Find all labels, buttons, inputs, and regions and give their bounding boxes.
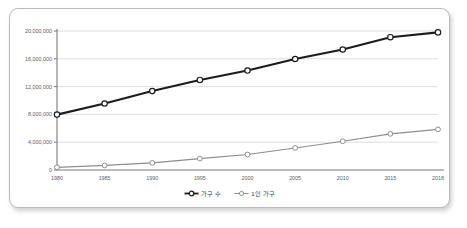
x-axis-label: 2010 [337, 175, 349, 181]
series-line-single-person [57, 129, 438, 167]
x-axis-label: 1985 [99, 175, 111, 181]
y-axis-label: 20,000,000 [25, 28, 52, 34]
data-point-households [435, 30, 440, 35]
data-point-households [197, 77, 202, 82]
data-point-households [54, 112, 59, 117]
data-point-households [245, 68, 250, 73]
y-axis-label: 8,000,000 [28, 111, 52, 117]
legend-item-households[interactable]: 가구 수 [184, 189, 221, 198]
chart-plot-area: 04,000,0008,000,00012,000,00016,000,0002… [10, 9, 451, 209]
x-axis-label: 2015 [384, 175, 396, 181]
x-axis-label: 1995 [194, 175, 206, 181]
data-point-households [292, 56, 297, 61]
data-point-households [102, 101, 107, 106]
y-axis-label: 0 [49, 167, 52, 173]
chart-card: 04,000,0008,000,00012,000,00016,000,0002… [9, 8, 450, 208]
line-chart: 04,000,0008,000,00012,000,00016,000,0002… [10, 9, 451, 209]
data-point-single-person [293, 146, 298, 151]
y-axis-label: 12,000,000 [25, 84, 52, 90]
data-point-households [340, 47, 345, 52]
data-point-single-person [340, 139, 345, 144]
legend-item-single-person[interactable]: 1인 가구 [234, 189, 275, 198]
legend-marker-sub-icon [234, 189, 249, 198]
y-axis-label: 16,000,000 [25, 56, 52, 62]
data-point-single-person [197, 156, 202, 161]
data-point-households [388, 34, 393, 39]
data-point-households [150, 88, 155, 93]
x-axis-label: 2000 [242, 175, 254, 181]
y-axis-label: 4,000,000 [28, 139, 52, 145]
data-point-single-person [436, 127, 441, 132]
chart-legend: 가구 수 1인 가구 [10, 189, 449, 198]
x-axis-label: 2005 [289, 175, 301, 181]
data-point-single-person [388, 131, 393, 136]
data-point-single-person [102, 163, 107, 168]
data-point-single-person [150, 161, 155, 166]
x-axis-label: 2018 [432, 175, 444, 181]
legend-marker-main-icon [184, 189, 199, 198]
x-axis-label: 1980 [51, 175, 63, 181]
legend-label-households: 가구 수 [201, 189, 221, 198]
legend-label-single-person: 1인 가구 [251, 189, 275, 198]
data-point-single-person [245, 152, 250, 157]
data-point-single-person [55, 165, 60, 170]
x-axis-label: 1990 [146, 175, 158, 181]
